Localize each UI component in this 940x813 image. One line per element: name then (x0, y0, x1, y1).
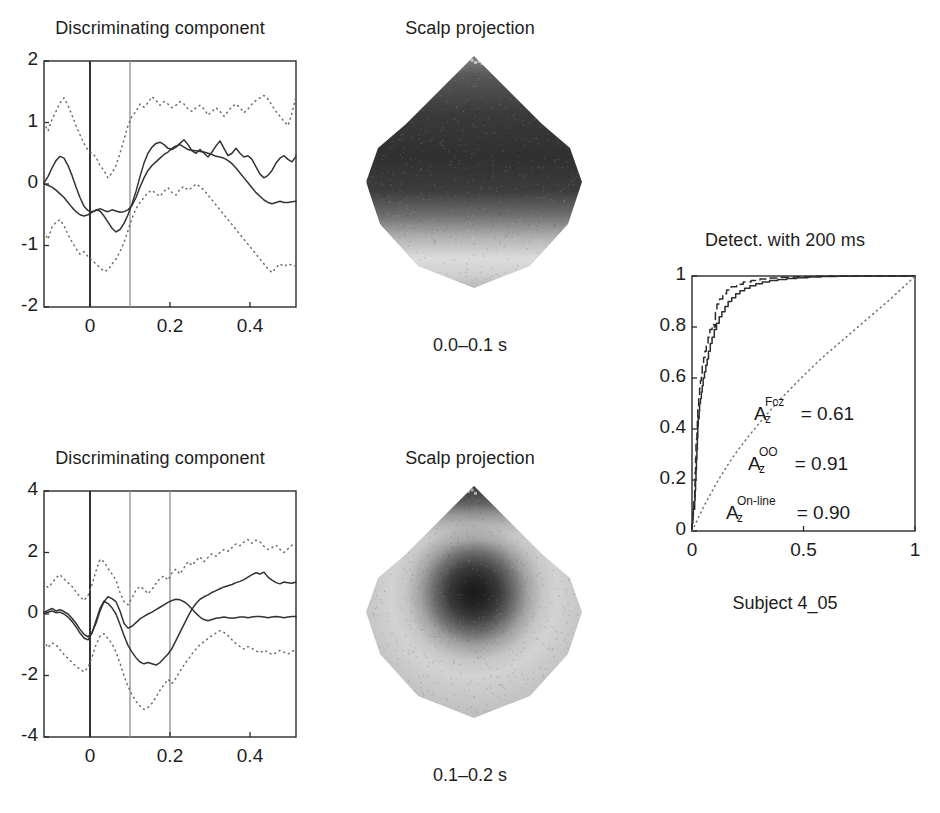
ytick-label: -4 (0, 724, 38, 746)
xtick-label: 0.2 (140, 315, 200, 337)
az-subscript: z (765, 412, 771, 426)
az-annotation: AzOn-line= 0.90 (726, 502, 850, 524)
xtick-label: 0 (60, 745, 120, 767)
bottom-scalp-map (354, 482, 594, 722)
az-superscript: On-line (737, 494, 776, 508)
az-value: = 0.61 (801, 403, 854, 425)
panel-bottom-scalp-projection: Scalp projection 0.1–0.2 s (320, 430, 620, 810)
roc-xtick-label: 1 (885, 539, 940, 561)
az-symbol: AzOn-line (726, 502, 739, 524)
roc-ytick-label: 0.2 (638, 467, 686, 489)
roc-ytick-label: 0 (638, 518, 686, 540)
az-superscript: Fcz (765, 395, 784, 409)
ytick-label: -2 (0, 294, 38, 316)
roc-ytick-label: 0.4 (638, 416, 686, 438)
top-scalp-caption: 0.0–0.1 s (320, 335, 620, 356)
xtick-label: 0 (60, 315, 120, 337)
roc-xtick-label: 0.5 (774, 539, 834, 561)
bottom-scalp-title: Scalp projection (320, 448, 620, 469)
bottom-scalp-caption: 0.1–0.2 s (320, 765, 620, 786)
roc-ytick-label: 0.6 (638, 365, 686, 387)
ytick-label: 1 (0, 110, 38, 132)
panel-bottom-left-discriminating-component: Discriminating component 00.20.4420-2-4 (0, 430, 320, 790)
az-superscript: OO (759, 445, 778, 459)
az-subscript: z (759, 462, 765, 476)
roc-xtick-label: 0 (662, 539, 722, 561)
az-symbol: AzOO (748, 453, 761, 475)
subject-label: Subject 4_05 (640, 593, 930, 614)
xtick-label: 0.4 (220, 315, 280, 337)
az-value: = 0.90 (797, 502, 850, 524)
az-symbol: AzFcz (754, 403, 767, 425)
top-scalp-map (354, 52, 594, 292)
ytick-label: 2 (0, 48, 38, 70)
az-subscript: z (737, 511, 743, 525)
panel-top-scalp-projection: Scalp projection 0.0–0.1 s (320, 0, 620, 380)
ytick-label: -1 (0, 233, 38, 255)
roc-title: Detect. with 200 ms (640, 230, 930, 251)
ytick-label: 0 (0, 601, 38, 623)
bottom-left-plot-canvas (0, 458, 320, 788)
ytick-label: 0 (0, 171, 38, 193)
top-scalp-title: Scalp projection (320, 18, 620, 39)
top-left-plot-canvas (0, 28, 320, 358)
ytick-label: -2 (0, 663, 38, 685)
az-value: = 0.91 (795, 453, 848, 475)
ytick-label: 2 (0, 540, 38, 562)
xtick-label: 0.4 (220, 745, 280, 767)
roc-ytick-label: 0.8 (638, 314, 686, 336)
az-annotation: AzFcz= 0.61 (754, 403, 854, 425)
ytick-label: 4 (0, 478, 38, 500)
xtick-label: 0.2 (140, 745, 200, 767)
panel-roc-detection: Detect. with 200 ms Subject 4_05 00.5110… (620, 210, 940, 610)
roc-ytick-label: 1 (638, 263, 686, 285)
panel-top-left-discriminating-component: Discriminating component 00.20.4210-1-2 (0, 0, 320, 350)
az-annotation: AzOO= 0.91 (748, 453, 848, 475)
